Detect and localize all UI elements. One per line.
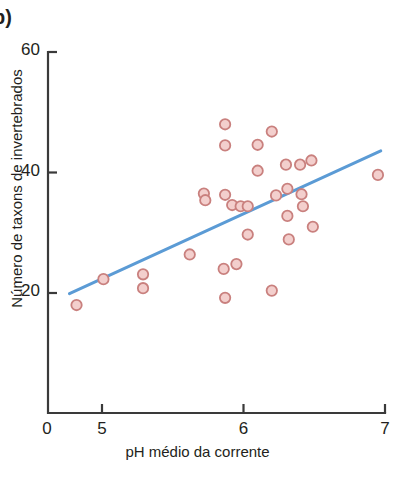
data-point xyxy=(281,159,291,169)
data-point xyxy=(185,249,195,259)
data-point xyxy=(231,259,241,269)
x-tick-label-6: 6 xyxy=(224,419,264,439)
figure-panel: b) Número de taxons de invertebrados pH … xyxy=(0,0,395,478)
data-point xyxy=(252,165,262,175)
data-point xyxy=(243,229,253,239)
y-tick-label-60: 60 xyxy=(0,40,40,60)
data-point xyxy=(252,140,262,150)
x-origin-label: 0 xyxy=(27,419,67,439)
data-point xyxy=(220,190,230,200)
axis-lines xyxy=(48,52,385,413)
data-point xyxy=(138,283,148,293)
data-point xyxy=(296,189,306,199)
data-point xyxy=(200,195,210,205)
x-tick-label-5: 5 xyxy=(82,419,122,439)
data-point xyxy=(220,140,230,150)
data-point xyxy=(308,222,318,232)
scatter-plot xyxy=(0,0,395,478)
axis-ticks xyxy=(48,52,385,413)
data-point xyxy=(373,170,383,180)
data-point xyxy=(271,190,281,200)
data-point xyxy=(98,274,108,284)
data-point xyxy=(71,300,81,310)
data-point xyxy=(220,119,230,129)
data-points xyxy=(71,119,383,310)
y-tick-label-40: 40 xyxy=(0,161,40,181)
data-point xyxy=(298,201,308,211)
data-point xyxy=(267,126,277,136)
data-point xyxy=(284,234,294,244)
data-point xyxy=(218,264,228,274)
data-point xyxy=(138,269,148,279)
data-point xyxy=(306,155,316,165)
x-tick-label-7: 7 xyxy=(365,419,395,439)
data-point xyxy=(267,285,277,295)
data-point xyxy=(282,184,292,194)
x-axis-title: pH médio da corrente xyxy=(0,443,395,460)
data-point xyxy=(282,211,292,221)
y-tick-label-20: 20 xyxy=(0,281,40,301)
data-point xyxy=(220,293,230,303)
data-point xyxy=(295,159,305,169)
data-point xyxy=(243,201,253,211)
